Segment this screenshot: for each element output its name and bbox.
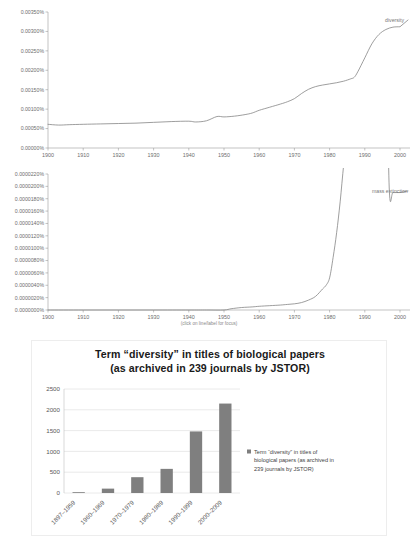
x-tick-label: 2000	[394, 152, 406, 158]
y-tick-label: 0.00250%	[21, 48, 45, 54]
x-tick-label: 1900	[42, 152, 54, 158]
legend-label-mass-extinction[interactable]: mass extinction	[372, 188, 408, 194]
x-tick-label: 1970	[288, 152, 300, 158]
bar-chart-title-line1: Term “diversity” in titles of biological…	[95, 348, 325, 360]
ngram-diversity-svg[interactable]: 0.00000%0.00050%0.00100%0.00150%0.00200%…	[0, 0, 417, 163]
y-tick-label: 0.0000140%	[15, 220, 45, 226]
x-tick-label: 1897–1959	[50, 498, 77, 525]
x-tick-label: 1980–1989	[138, 498, 165, 525]
y-tick-label: 1000	[46, 448, 60, 455]
bar-chart-x-axis: 1897–19591960–19691970–19791980–19891990…	[50, 498, 224, 525]
bar[interactable]	[190, 431, 202, 493]
y-tick-label: 0.00000%	[21, 145, 45, 151]
y-tick-label: 0.0000020%	[15, 295, 45, 301]
bar-chart-gridlines	[64, 389, 240, 493]
x-tick-label: 1980	[324, 152, 336, 158]
x-tick-label: 1960	[253, 152, 265, 158]
bar-chart-plot[interactable]: 25002000150010005000 1897–19591960–19691…	[32, 383, 388, 536]
y-tick-label: 2000	[46, 406, 60, 413]
legend-label-line2: biological papers (as archived in	[254, 457, 334, 463]
bar-chart-legend[interactable]: Term “diversity” in titles of biological…	[247, 449, 334, 472]
x-tick-label: 1970	[288, 314, 300, 320]
x-tick-label: 1980	[324, 314, 336, 320]
x-tick-label: 1900	[42, 314, 54, 320]
x-tick-label: 2000	[394, 314, 406, 320]
bar-chart-bars[interactable]	[73, 404, 232, 493]
y-tick-label: 0.0000040%	[15, 282, 45, 288]
y-tick-label: 0.0000080%	[15, 257, 45, 263]
x-tick-label: 1940	[183, 152, 195, 158]
x-tick-label: 1910	[77, 314, 89, 320]
y-tick-label: 500	[50, 468, 61, 475]
x-tick-label: 1930	[148, 152, 160, 158]
series-line-diversity[interactable]	[48, 20, 408, 125]
x-tick-label: 1990–1999	[167, 498, 194, 525]
bar[interactable]	[102, 489, 114, 493]
ngram2-x-axis: 1900191019201930194019501960197019801990…	[42, 310, 410, 320]
x-tick-label: 1920	[112, 314, 124, 320]
y-tick-label: 0.00300%	[21, 28, 45, 34]
x-tick-label: 1990	[359, 314, 371, 320]
bar[interactable]	[219, 404, 231, 493]
y-tick-label: 0.00150%	[21, 87, 45, 93]
bar-chart-title-line2: (as archived in 239 journals by JSTOR)	[32, 361, 388, 375]
y-tick-label: 0.0000200%	[15, 183, 45, 189]
y-tick-label: 0.0000120%	[15, 233, 45, 239]
ngram1-x-axis: 1900191019201930194019501960197019801990…	[42, 148, 410, 158]
series-line-mass-extinction[interactable]	[48, 168, 408, 310]
y-tick-label: 0	[57, 489, 61, 496]
x-tick-label: 1950	[218, 152, 230, 158]
legend-label-diversity[interactable]: diversity	[385, 17, 404, 23]
y-tick-label: 0.0000160%	[15, 208, 45, 214]
x-tick-label: 1960	[253, 314, 265, 320]
y-tick-label: 2500	[46, 385, 60, 392]
bar[interactable]	[161, 469, 173, 493]
x-tick-label: 1930	[148, 314, 160, 320]
x-tick-label: 1990	[359, 152, 371, 158]
ngram-chart-diversity[interactable]: 0.00000%0.00050%0.00100%0.00150%0.00200%…	[0, 0, 417, 163]
y-tick-label: 0.0000060%	[15, 270, 45, 276]
y-tick-label: 1500	[46, 427, 60, 434]
x-tick-label: 2000–2009	[196, 498, 223, 525]
ngram1-y-axis: 0.00000%0.00050%0.00100%0.00150%0.00200%…	[21, 9, 48, 151]
jstor-bar-chart-panel: Term “diversity” in titles of biological…	[31, 340, 387, 536]
ngram2-y-axis: 0.0000000%0.0000020%0.0000040%0.0000060%…	[15, 171, 48, 313]
legend-swatch-icon	[247, 450, 251, 454]
y-tick-label: 0.00050%	[21, 125, 45, 131]
y-tick-label: 0.0000220%	[15, 171, 45, 177]
y-tick-label: 0.0000180%	[15, 196, 45, 202]
ngram-chart-mass-extinction[interactable]: 0.0000000%0.0000020%0.0000040%0.0000060%…	[0, 168, 417, 336]
x-tick-label: 1970–1979	[108, 498, 135, 525]
y-tick-label: 0.0000000%	[15, 307, 45, 313]
bar-chart-title: Term “diversity” in titles of biological…	[32, 347, 388, 375]
bar[interactable]	[73, 492, 85, 493]
bar[interactable]	[131, 477, 143, 493]
ngram-mass-extinction-svg[interactable]: 0.0000000%0.0000020%0.0000040%0.0000060%…	[0, 168, 417, 336]
x-tick-label: 1910	[77, 152, 89, 158]
focus-hint-caption: (click on line/label for focus)	[181, 321, 238, 326]
legend-label-line3: 239 journals by JSTOR)	[254, 466, 314, 472]
y-tick-label: 0.00350%	[21, 9, 45, 15]
y-tick-label: 0.0000100%	[15, 245, 45, 251]
x-tick-label: 1960–1969	[79, 498, 106, 525]
y-tick-label: 0.00200%	[21, 67, 45, 73]
x-tick-label: 1950	[218, 314, 230, 320]
x-tick-label: 1920	[112, 152, 124, 158]
legend-label-line1: Term “diversity” in titles of	[254, 449, 318, 455]
y-tick-label: 0.00100%	[21, 106, 45, 112]
x-tick-label: 1940	[183, 314, 195, 320]
bar-chart-y-axis: 25002000150010005000	[46, 385, 60, 496]
